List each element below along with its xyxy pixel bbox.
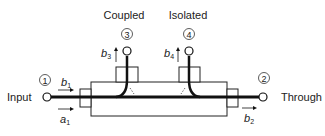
port2-terminal-icon bbox=[259, 93, 267, 101]
b3-arrow-icon bbox=[114, 47, 118, 62]
b3-label: b3 bbox=[101, 47, 111, 60]
b1-label: b1 bbox=[61, 76, 71, 89]
b1-arrow-icon bbox=[58, 88, 74, 92]
port3-terminal-icon bbox=[123, 47, 131, 55]
port1-terminal-icon bbox=[43, 93, 51, 101]
port2-number: 2 bbox=[261, 74, 266, 84]
b4-arrow-icon bbox=[176, 47, 180, 62]
b4-label: b4 bbox=[164, 47, 174, 60]
b2-label: b2 bbox=[244, 112, 254, 125]
coupled-label: Coupled bbox=[104, 9, 145, 21]
coupled-dash bbox=[130, 88, 134, 94]
a1-arrow-icon bbox=[58, 107, 74, 111]
isolated-label: Isolated bbox=[169, 9, 208, 21]
a1-label: a1 bbox=[60, 113, 70, 126]
coupler-body bbox=[91, 82, 227, 116]
port1-number: 1 bbox=[42, 76, 47, 86]
b2-arrow-icon bbox=[242, 106, 257, 110]
port3-number: 3 bbox=[124, 30, 129, 40]
isolated-dash bbox=[181, 88, 185, 94]
through-label: Through bbox=[281, 91, 322, 103]
port4-terminal-icon bbox=[185, 47, 193, 55]
input-label: Input bbox=[7, 91, 31, 103]
port4-number: 4 bbox=[186, 30, 191, 40]
directional-coupler-diagram: 1 2 3 4 Input Through Coupled Isolated b… bbox=[0, 0, 325, 136]
